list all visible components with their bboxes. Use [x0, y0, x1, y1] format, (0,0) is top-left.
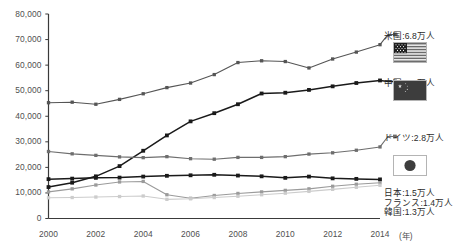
data-point-marker [189, 81, 192, 84]
series-line [49, 147, 381, 159]
y-tick-label: 40,000 [0, 111, 42, 121]
x-tick-label: 2008 [216, 229, 260, 239]
x-tick-label: 2006 [169, 229, 213, 239]
data-point-marker [47, 196, 50, 199]
data-point-marker [118, 195, 121, 198]
data-point-marker [165, 193, 168, 196]
data-point-marker [71, 101, 74, 104]
y-tick-label: 50,000 [0, 85, 42, 95]
data-point-marker [142, 156, 145, 159]
data-point-marker [331, 151, 334, 154]
y-tick-label: 10,000 [0, 187, 42, 197]
data-point-marker [189, 119, 193, 123]
y-tick-label: 70,000 [0, 34, 42, 44]
data-point-marker [71, 152, 74, 155]
data-point-marker [47, 177, 51, 181]
y-tick-label: 0 [0, 213, 42, 223]
data-point-marker [331, 84, 335, 88]
data-point-marker [94, 183, 97, 186]
data-point-marker [331, 57, 334, 60]
data-point-marker [331, 188, 334, 191]
x-tick-label: 2010 [263, 229, 307, 239]
data-point-marker [189, 197, 192, 200]
data-point-marker [71, 187, 74, 190]
data-point-marker [355, 50, 358, 53]
data-point-marker [213, 158, 216, 161]
data-point-marker [355, 149, 358, 152]
series-label-6: 韓国:1.3万人 [384, 205, 435, 217]
data-point-marker [260, 59, 263, 62]
x-tick-label: 2004 [121, 229, 165, 239]
data-point-marker [236, 102, 240, 106]
x-axis-unit-label: (年) [399, 229, 413, 241]
y-tick-label: 30,000 [0, 136, 42, 146]
data-point-marker [284, 189, 287, 192]
data-point-marker [236, 192, 239, 195]
data-point-marker [165, 134, 169, 138]
series-line [49, 80, 381, 187]
data-point-marker [70, 181, 74, 185]
data-point-marker [165, 86, 168, 89]
y-tick-label: 80,000 [0, 9, 42, 19]
data-point-marker [236, 195, 239, 198]
data-point-marker [142, 92, 145, 95]
series-lines [47, 43, 382, 201]
data-point-marker [236, 61, 239, 64]
data-point-marker [47, 185, 51, 189]
data-point-marker [142, 180, 145, 183]
jp-flag-icon [393, 155, 427, 176]
data-point-marker [260, 156, 263, 159]
data-point-marker [212, 111, 216, 115]
data-point-marker [283, 176, 287, 180]
data-point-marker [165, 174, 169, 178]
data-point-marker [378, 184, 381, 187]
data-point-marker [212, 173, 216, 177]
data-point-marker [94, 103, 97, 106]
data-point-marker [47, 101, 50, 104]
data-point-marker [165, 198, 168, 201]
data-point-marker [118, 176, 122, 180]
data-point-marker [141, 175, 145, 179]
data-point-marker [284, 155, 287, 158]
data-point-marker [260, 174, 264, 178]
data-point-marker [284, 192, 287, 195]
x-tick-label: 2014 [358, 229, 402, 239]
data-point-marker [118, 164, 122, 168]
data-point-marker [47, 150, 50, 153]
data-point-marker [236, 174, 240, 178]
data-point-marker [354, 81, 358, 85]
data-point-marker [354, 177, 358, 181]
data-point-marker [94, 195, 97, 198]
data-point-marker [260, 92, 264, 96]
data-point-marker [118, 180, 121, 183]
us-flag-icon [393, 42, 427, 63]
data-point-marker [189, 173, 193, 177]
data-point-marker [94, 154, 97, 157]
data-point-marker [118, 98, 121, 101]
chart-axes [49, 14, 381, 219]
cn-flag-icon [393, 80, 427, 101]
data-point-marker [189, 157, 192, 160]
data-point-marker [165, 155, 168, 158]
data-point-marker [307, 66, 310, 69]
y-tick-label: 60,000 [0, 60, 42, 70]
data-point-marker [94, 176, 98, 180]
data-point-marker [307, 152, 310, 155]
data-point-marker [284, 60, 287, 63]
data-point-marker [142, 194, 145, 197]
data-point-marker [71, 196, 74, 199]
data-point-marker [307, 88, 311, 92]
data-point-marker [236, 156, 239, 159]
data-point-marker [331, 185, 334, 188]
data-point-marker [70, 177, 74, 181]
series-label-1: 米国:6.8万人 [384, 29, 435, 41]
x-tick-label: 2000 [27, 229, 71, 239]
y-tick-label: 20,000 [0, 162, 42, 172]
data-point-marker [260, 190, 263, 193]
x-tick-label: 2002 [74, 229, 118, 239]
data-point-marker [283, 91, 287, 95]
series-label-3: ドイツ:2.8万人 [384, 131, 444, 143]
data-point-marker [307, 190, 310, 193]
data-point-marker [213, 196, 216, 199]
